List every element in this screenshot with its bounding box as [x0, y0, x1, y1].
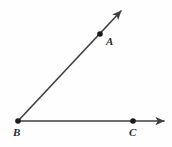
point-label-b: B — [13, 127, 20, 138]
point-dot-c — [130, 118, 136, 124]
angle-diagram-svg — [0, 0, 172, 147]
point-dot-b — [15, 118, 21, 124]
angle-diagram-canvas: A B C — [0, 0, 172, 147]
point-dot-a — [97, 31, 103, 37]
ray-ba-line — [18, 11, 121, 121]
point-label-c: C — [129, 127, 136, 138]
point-label-a: A — [106, 36, 113, 47]
